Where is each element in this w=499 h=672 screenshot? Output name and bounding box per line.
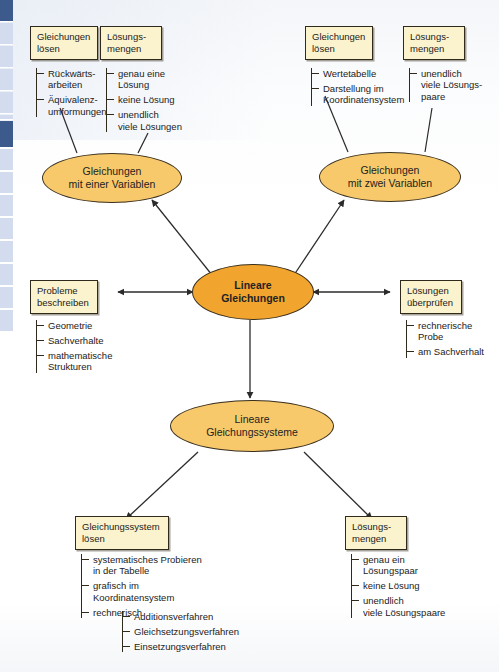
box-solution-sets-two-variables[interactable]: Lösungs- mengen	[403, 26, 465, 60]
box-title-line1: Gleichungen	[37, 31, 91, 43]
index-tab-4[interactable]	[0, 69, 13, 91]
node-label: Gleichungen mit einer Variablen	[63, 165, 162, 191]
node-equations-one-variable[interactable]: Gleichungen mit einer Variablen	[42, 153, 182, 203]
sublist-items: systematisches Probierenin der Tabellegr…	[81, 554, 271, 618]
sublist-items: rechnerischeProbeam Sachverhalt	[406, 320, 494, 358]
sublist-solve-system-rechnerisch: AdditionsverfahrenGleichsetzungsverfahre…	[122, 611, 282, 652]
box-title-line1: Lösungen	[407, 285, 455, 297]
node-label-line2: Gleichungssysteme	[206, 426, 298, 439]
box-check-solutions[interactable]: Lösungen überprüfen	[400, 280, 462, 314]
node-label-line1: Lineare	[206, 413, 298, 426]
sublist-item: mathematischeStrukturen	[48, 350, 128, 373]
box-title-line2: beschreiben	[37, 297, 91, 309]
index-tab-9[interactable]	[0, 172, 13, 194]
sublist-item: Sachverhalte	[48, 335, 128, 346]
sublist-item: keine Lösung	[363, 580, 461, 591]
sublist-solve-equations-two-variables: WertetabelleDarstellung imKoordinatensys…	[311, 68, 409, 106]
arrow-systems-to-solve-system	[126, 452, 198, 519]
index-tab-12[interactable]	[0, 241, 13, 263]
sublist-solution-sets-two-variables: unendlichviele Lösungs-paare	[409, 68, 491, 102]
box-title-line1: Lösungs-	[352, 521, 400, 533]
index-tab-3[interactable]	[0, 46, 13, 68]
index-tab-14[interactable]	[0, 287, 13, 309]
arrow-systems-to-solution-sets	[304, 452, 372, 519]
sublist-solve-system: systematisches Probierenin der Tabellegr…	[81, 554, 271, 618]
index-tab-5[interactable]	[0, 92, 13, 114]
sublist-items: AdditionsverfahrenGleichsetzungsverfahre…	[122, 611, 282, 652]
sublist-items: unendlichviele Lösungs-paare	[409, 68, 491, 102]
index-tab-7[interactable]	[0, 121, 13, 148]
node-lineare-gleichungssysteme[interactable]: Lineare Gleichungssysteme	[170, 400, 334, 452]
sublist-items: GeometrieSachverhaltemathematischeStrukt…	[36, 320, 128, 373]
sublist-item: systematisches Probierenin der Tabelle	[93, 554, 271, 577]
node-label-line2: mit zwei Variablen	[348, 177, 432, 190]
diagram-page: Gleichungen lösen Rückwärts-arbeitenÄqui…	[0, 0, 499, 672]
sublist-item: Rückwärts-arbeiten	[48, 68, 110, 91]
node-lineare-gleichungen[interactable]: Lineare Gleichungen	[192, 264, 314, 320]
sublist-item: grafisch imKoordinatensystem	[93, 580, 271, 603]
sublist-item: Darstellung imKoordinatensystem	[323, 83, 409, 106]
box-title-line2: lösen	[37, 43, 91, 55]
index-tab-10[interactable]	[0, 195, 13, 217]
sublist-solution-sets-systems: genau einLösungspaarkeine Lösungunendlic…	[351, 554, 461, 618]
sublist-item: Wertetabelle	[323, 68, 409, 79]
box-solve-system[interactable]: Gleichungssystem lösen	[75, 516, 169, 550]
sublist-item: genau einLösungspaar	[363, 554, 461, 577]
box-solve-equations-one-variable[interactable]: Gleichungen lösen	[30, 26, 98, 60]
arrow-center-to-two-var	[294, 200, 344, 275]
box-title-line1: Lösungs-	[107, 31, 155, 43]
sublist-items: WertetabelleDarstellung imKoordinatensys…	[311, 68, 409, 106]
box-title-line2: mengen	[107, 43, 155, 55]
box-title-line2: überprüfen	[407, 297, 455, 309]
sublist-item: Gleichsetzungsverfahren	[134, 626, 282, 637]
node-equations-two-variables[interactable]: Gleichungen mit zwei Variablen	[319, 152, 461, 202]
node-label: Gleichungen mit zwei Variablen	[342, 164, 438, 190]
box-title-line2: mengen	[352, 533, 400, 545]
box-title-line1: Gleichungssystem	[82, 521, 162, 533]
sublist-check-solutions: rechnerischeProbeam Sachverhalt	[406, 320, 494, 358]
node-label: Lineare Gleichungssysteme	[200, 413, 304, 439]
index-tab-2[interactable]	[0, 23, 13, 45]
arrow-center-to-one-var	[152, 200, 212, 275]
index-tab-11[interactable]	[0, 218, 13, 240]
wire-one-var-to-solution-sets	[138, 133, 148, 153]
sublist-item: Äquivalenz-umformungen	[48, 94, 110, 117]
wire-two-var-to-solution-sets	[425, 108, 432, 152]
sublist-items: genau einLösungspaarkeine Lösungunendlic…	[351, 554, 461, 618]
index-tab-1[interactable]	[0, 0, 13, 22]
sublist-item: unendlichviele Lösungs-paare	[421, 68, 491, 102]
sublist-describe-problems: GeometrieSachverhaltemathematischeStrukt…	[36, 320, 128, 373]
sublist-item: Geometrie	[48, 320, 128, 331]
box-solve-equations-two-variables[interactable]: Gleichungen lösen	[305, 26, 373, 60]
sublist-solve-equations-one-variable: Rückwärts-arbeitenÄquivalenz-umformungen	[36, 68, 110, 117]
node-label-line1: Gleichungen	[348, 164, 432, 177]
sublist-item: unendlichviele Lösungen	[118, 109, 186, 132]
node-label-line2: Gleichungen	[221, 292, 285, 305]
box-title-line2: lösen	[82, 533, 162, 545]
sublist-solution-sets-one-variable: genau eineLösungkeine Lösungunendlichvie…	[106, 68, 186, 132]
sublist-items: Rückwärts-arbeitenÄquivalenz-umformungen	[36, 68, 110, 117]
sublist-item: genau eineLösung	[118, 68, 186, 91]
node-label-line2: mit einer Variablen	[69, 178, 156, 191]
sublist-items: genau eineLösungkeine Lösungunendlichvie…	[106, 68, 186, 132]
index-tab-6[interactable]	[0, 115, 13, 120]
index-tab-15[interactable]	[0, 310, 13, 332]
sublist-item: rechnerischeProbe	[418, 320, 494, 343]
index-tab-rail	[0, 0, 13, 672]
sublist-item: unendlichviele Lösungspaare	[363, 595, 461, 618]
index-tab-8[interactable]	[0, 149, 13, 171]
box-title-line2: mengen	[410, 43, 458, 55]
sublist-item: keine Lösung	[118, 94, 186, 105]
box-describe-problems[interactable]: Probleme beschreiben	[30, 280, 98, 314]
sublist-item: Additionsverfahren	[134, 611, 282, 622]
box-title-line2: lösen	[312, 43, 366, 55]
node-label: Lineare Gleichungen	[215, 279, 291, 305]
node-label-line1: Lineare	[221, 279, 285, 292]
box-title-line1: Lösungs-	[410, 31, 458, 43]
index-tab-13[interactable]	[0, 264, 13, 286]
box-solution-sets-systems[interactable]: Lösungs- mengen	[345, 516, 407, 550]
box-title-line1: Probleme	[37, 285, 91, 297]
sublist-item: Einsetzungsverfahren	[134, 641, 282, 652]
node-label-line1: Gleichungen	[69, 165, 156, 178]
box-solution-sets-one-variable[interactable]: Lösungs- mengen	[100, 26, 162, 60]
